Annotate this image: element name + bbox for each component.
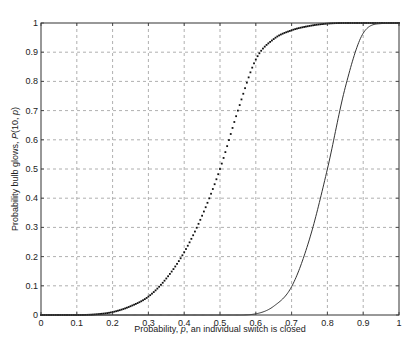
x-tick-label: 1 [396, 318, 401, 328]
y-tick-label: 1 [33, 18, 38, 28]
x-tick-label: 0.8 [321, 318, 334, 328]
x-tick-label: 0.2 [106, 318, 119, 328]
y-tick-label: 0.7 [25, 106, 38, 116]
y-tick-label: 0 [33, 310, 38, 320]
y-tick-label: 0.2 [25, 252, 38, 262]
y-tick-label: 0.5 [25, 164, 38, 174]
chart: 00.10.20.30.40.50.60.70.80.91 00.10.20.3… [0, 0, 415, 346]
x-tick-label: 0.9 [357, 318, 370, 328]
y-tick-label: 0.6 [25, 135, 38, 145]
x-tick-label: 0 [38, 318, 43, 328]
x-tick-label: 0.1 [71, 318, 84, 328]
y-tick-label: 0.8 [25, 76, 38, 86]
y-tick-label: 0.3 [25, 222, 38, 232]
y-tick-label: 0.9 [25, 47, 38, 57]
y-tick-label: 0.4 [25, 193, 38, 203]
x-axis-label: Probability, p, an individual switch is … [134, 324, 305, 334]
y-axis-label: Probability bulb glows, P(10, p) [10, 107, 20, 231]
y-tick-label: 0.1 [25, 281, 38, 291]
